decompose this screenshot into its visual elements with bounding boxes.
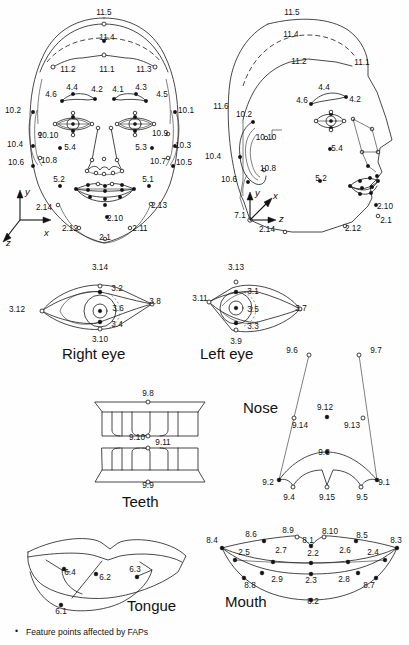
front_face-label-11-3: 11.3 <box>136 65 152 74</box>
profile_face-label-11-4: 11.4 <box>283 30 299 39</box>
mouth-label-8-1: 8.1 <box>302 536 314 545</box>
mouth-label-2-9: 2.9 <box>271 575 283 584</box>
front-nose-bridge-left <box>111 128 122 171</box>
front-eyebrow-left-lower <box>114 99 146 101</box>
nose-label-9-1: 9.1 <box>378 478 390 487</box>
left_eye-label-3-9: 3.9 <box>230 337 242 346</box>
front-face-labels: 11.511.411.211.111.34.44.24.14.34.64.510… <box>5 8 194 242</box>
mouth-label-2-3: 2.3 <box>305 576 317 585</box>
front_face-label-5-3: 5.3 <box>135 143 147 152</box>
right_eye-label-3-12: 3.12 <box>9 305 25 314</box>
left_eye-label-3-13: 3.13 <box>228 263 244 272</box>
front_face-label-10-6: 10.6 <box>8 158 24 167</box>
front_face-label-11-2: 11.2 <box>60 65 76 74</box>
right_eye-label-3-10: 3.10 <box>92 335 108 344</box>
right-eye-diagram: Right eye <box>40 284 154 362</box>
nose-label-9-3: 9.3 <box>318 448 330 457</box>
profile-skull-back <box>228 24 268 220</box>
profile_face-label-7-1: 7.1 <box>234 211 246 220</box>
right_eye-label-3-6: 3.6 <box>112 304 124 313</box>
profile_face-label-11-1: 11.1 <box>354 58 370 67</box>
front_face-label-2-13: 2.13 <box>151 201 167 210</box>
mouth-label-2-6: 2.6 <box>339 546 351 555</box>
profile_face-label-2-14: 2.14 <box>259 225 275 234</box>
front_face-label-4-5: 4.5 <box>156 90 168 99</box>
teeth-label-9-9: 9.9 <box>142 481 154 490</box>
tongue-label-6-3: 6.3 <box>129 565 141 574</box>
nose-label-9-14: 9.14 <box>292 421 308 430</box>
profile-axis-x-label: x <box>272 190 279 201</box>
nose-labels: 9.69.79.129.149.139.39.29.19.49.159.5 <box>262 346 390 502</box>
profile_face-label-5-4: 5.4 <box>331 144 343 153</box>
profile_face-label-2-12: 2.12 <box>345 224 361 233</box>
front_face-label-10-4: 10.4 <box>7 140 23 149</box>
right_eye-label-3-14: 3.14 <box>92 263 108 272</box>
caption-tongue: Tongue <box>127 597 176 614</box>
mouth-label-2-2: 2.2 <box>307 549 319 558</box>
left-eye-labels: 3.133.13.113.53.73.33.9 <box>192 263 307 346</box>
front-nostril-arc <box>87 166 122 171</box>
front-eyebrow-right-lower <box>62 99 95 101</box>
front_face-label-10-10: 10.10 <box>38 131 59 140</box>
profile_face-label-2-10: 2.10 <box>377 202 393 211</box>
front-axis-x-label: x <box>43 227 50 238</box>
footnote-text: Feature points affected by FAPs <box>26 627 148 637</box>
right-eye-labels: 3.143.23.83.123.63.43.10 <box>9 263 161 344</box>
tongue-label-6-4: 6.4 <box>64 568 76 577</box>
profile_face-label-4-4: 4.4 <box>318 83 330 92</box>
nose-label-9-6: 9.6 <box>286 346 298 355</box>
teeth-label-9-10: 9.10 <box>129 433 145 442</box>
mouth-label-2-4: 2.4 <box>367 548 379 557</box>
profile_face-label-5-2: 5.2 <box>315 174 327 183</box>
profile-face-front-line <box>240 120 244 210</box>
mouth-label-8-2: 8.2 <box>307 597 319 606</box>
front_face-label-11-5: 11.5 <box>96 8 112 17</box>
front_face-label-5-1: 5.1 <box>142 175 154 184</box>
mouth-label-8-8: 8.8 <box>244 581 256 590</box>
mouth-label-8-9: 8.9 <box>282 526 294 535</box>
profile_face-label-4-6: 4.6 <box>296 96 308 105</box>
tongue-label-6-2: 6.2 <box>99 573 111 582</box>
mouth-label-8-3: 8.3 <box>390 536 402 545</box>
profile_face-label-10-6: 10.6 <box>221 175 237 184</box>
front_face-label-4-6: 4.6 <box>45 90 57 99</box>
front_face-label-11-1: 11.1 <box>99 65 115 74</box>
caption-right-eye: Right eye <box>62 345 125 362</box>
front_face-label-2-14: 2.14 <box>36 203 52 212</box>
mouth-label-8-10: 8.10 <box>322 527 338 536</box>
profile-face-diagram <box>228 19 392 234</box>
front_face-label-4-1: 4.1 <box>112 85 124 94</box>
profile-ear-outer <box>240 122 267 185</box>
right_eye-label-3-8: 3.8 <box>149 297 161 306</box>
front_face-label-10-9: 10.9 <box>152 129 168 138</box>
mouth-label-8-4: 8.4 <box>206 536 218 545</box>
left_eye-label-3-3: 3.3 <box>247 322 259 331</box>
front_face-label-10-5: 10.5 <box>176 158 192 167</box>
profile-mouth <box>348 174 379 195</box>
caption-teeth: Teeth <box>122 493 159 510</box>
front_face-label-10-1: 10.1 <box>178 106 194 115</box>
profile_face-label-11-2: 11.2 <box>291 57 307 66</box>
front_face-label-2-10: 2.10 <box>107 214 123 223</box>
mouth-label-2-7: 2.7 <box>275 546 287 555</box>
front-temple-left <box>38 79 42 124</box>
teeth-labels: 9.89.109.119.9 <box>129 389 171 490</box>
teeth-label-9-11: 9.11 <box>155 438 171 447</box>
front_face-label-2-11: 2.11 <box>132 224 148 233</box>
profile-face-labels: 11.511.411.211.111.64.44.64.210.210.105.… <box>205 8 393 234</box>
profile-axis-y-label: y <box>254 187 261 198</box>
front_face-label-10-3: 10.3 <box>175 141 191 150</box>
footnote-bullet: • <box>15 626 18 636</box>
teeth-label-9-8: 9.8 <box>142 389 154 398</box>
profile_face-label-10-8: 10.8 <box>260 164 276 173</box>
right_eye-label-3-2: 3.2 <box>111 284 123 293</box>
profile-eyebrow-lower <box>311 97 346 104</box>
profile_face-label-10-2: 10.2 <box>236 110 252 119</box>
profile_face-label-10-4: 10.4 <box>205 152 221 161</box>
front_face-label-2-1: 2.1 <box>99 233 111 242</box>
left_eye-label-3-7: 3.7 <box>295 304 307 313</box>
caption-left-eye: Left eye <box>200 345 253 362</box>
front-nose-bridge-right <box>87 128 98 171</box>
profile_face-label-2-1: 2.1 <box>380 216 392 225</box>
profile-axis-z-label: z <box>278 213 284 224</box>
